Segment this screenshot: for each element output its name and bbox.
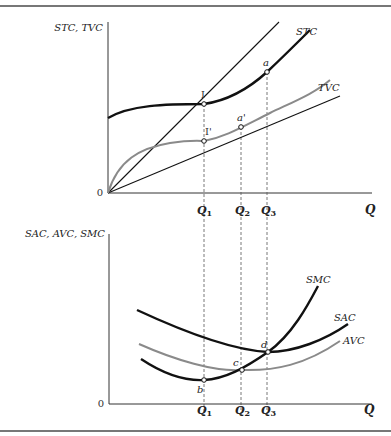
svg-text:Q1: Q1 bbox=[197, 204, 212, 218]
avc-label: AVC bbox=[342, 335, 365, 346]
top-q1-sub: 1 bbox=[207, 208, 213, 218]
bottom-q2-sub: 2 bbox=[245, 408, 251, 418]
top-y-axis-label: STC, TVC bbox=[54, 22, 103, 33]
tvc-curve bbox=[108, 80, 330, 193]
stc-label: STC bbox=[296, 26, 318, 37]
top-x-axis-label: Q bbox=[365, 203, 376, 217]
svg-text:Q2: Q2 bbox=[235, 204, 250, 218]
bottom-panel: SAC, AVC, SMC 0 Q SMC SAC AVC b c d Q1 Q… bbox=[25, 228, 375, 418]
avc-curve bbox=[139, 341, 340, 370]
top-origin-label: 0 bbox=[97, 187, 103, 198]
svg-text:Q2: Q2 bbox=[235, 404, 250, 418]
point-I bbox=[202, 102, 207, 107]
point-I-prime-label: I' bbox=[205, 126, 212, 137]
point-b bbox=[202, 378, 207, 383]
point-c bbox=[240, 368, 245, 373]
top-q2-main: Q bbox=[235, 204, 245, 217]
stc-curve bbox=[108, 30, 310, 118]
cost-curves-diagram: STC, TVC 0 Q STC TVC I a I' a' Q1 Q2 Q3 bbox=[0, 0, 391, 436]
point-b-label: b bbox=[197, 384, 203, 395]
point-a-prime-label: a' bbox=[237, 112, 246, 123]
top-q3-sub: 3 bbox=[271, 208, 277, 218]
point-I-label: I bbox=[201, 89, 205, 100]
bottom-y-axis-label: SAC, AVC, SMC bbox=[25, 228, 105, 239]
top-q2-sub: 2 bbox=[245, 208, 251, 218]
ray-to-a-prime bbox=[108, 96, 340, 193]
bottom-q1-sub: 1 bbox=[207, 408, 213, 418]
point-I-prime bbox=[202, 139, 207, 144]
point-a bbox=[265, 70, 270, 75]
top-tick-labels: Q1 Q2 Q3 bbox=[197, 204, 277, 218]
bottom-origin-label: 0 bbox=[98, 398, 104, 409]
bottom-q3-main: Q bbox=[261, 404, 271, 417]
smc-label: SMC bbox=[306, 274, 331, 285]
bottom-q3-sub: 3 bbox=[271, 408, 277, 418]
top-panel: STC, TVC 0 Q STC TVC I a I' a' Q1 Q2 Q3 bbox=[54, 22, 376, 416]
sac-curve bbox=[137, 310, 348, 352]
top-q3-main: Q bbox=[261, 204, 271, 217]
bottom-q2-main: Q bbox=[235, 404, 245, 417]
point-d bbox=[266, 350, 271, 355]
smc-curve bbox=[141, 286, 318, 380]
point-a-label: a bbox=[263, 57, 269, 68]
bottom-x-axis-label: Q bbox=[364, 403, 375, 417]
point-d-label: d bbox=[261, 339, 267, 350]
sac-label: SAC bbox=[334, 312, 356, 323]
bottom-q1-main: Q bbox=[197, 404, 207, 417]
top-q1-main: Q bbox=[197, 204, 207, 217]
point-a-prime bbox=[239, 125, 244, 130]
svg-text:Q1: Q1 bbox=[197, 404, 212, 418]
tvc-label: TVC bbox=[318, 82, 340, 93]
svg-text:Q3: Q3 bbox=[261, 404, 277, 418]
bottom-tick-labels: Q1 Q2 Q3 bbox=[197, 404, 277, 418]
point-c-label: c bbox=[233, 357, 239, 368]
svg-text:Q3: Q3 bbox=[261, 204, 277, 218]
